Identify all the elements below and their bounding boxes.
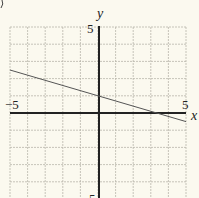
y-min-tick-label: 5	[89, 191, 96, 198]
cropped-label-fragment	[1, 0, 3, 8]
coordinate-plane: y 5 −5 5 x 5	[0, 0, 199, 198]
y-axis-label: y	[95, 6, 104, 21]
x-min-tick-label: −5	[5, 97, 19, 112]
x-max-tick-label: 5	[182, 97, 189, 112]
y-max-tick-label: 5	[87, 21, 94, 36]
x-axis-label: x	[190, 108, 198, 123]
